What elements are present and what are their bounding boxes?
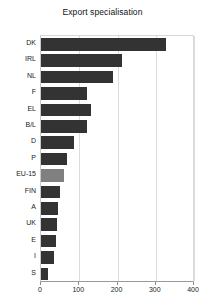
y-axis-label-el: EL xyxy=(0,101,36,117)
y-axis-label-e: E xyxy=(0,232,36,248)
bar-nl xyxy=(41,71,113,84)
bar-row xyxy=(41,52,193,68)
y-axis-category-labels: DKIRLNLFELB/LDPEU-15FINAUKEIS xyxy=(0,35,36,282)
bar-row xyxy=(41,167,193,183)
y-axis-label-f: F xyxy=(0,84,36,100)
bar-irl xyxy=(41,54,122,67)
plot-area xyxy=(40,35,194,282)
bar-b-l xyxy=(41,120,87,133)
export-specialisation-chart: Export specialisation DKIRLNLFELB/LDPEU-… xyxy=(0,0,205,308)
bar-row xyxy=(41,36,193,52)
x-axis: 0100200300400 xyxy=(40,282,194,306)
bar-s xyxy=(41,268,48,281)
bar-i xyxy=(41,251,54,264)
bar-dk xyxy=(41,38,166,51)
x-axis-tick xyxy=(117,282,118,285)
x-axis-tick xyxy=(155,282,156,285)
bar-series xyxy=(41,36,193,281)
bar-row xyxy=(41,266,193,282)
bar-row xyxy=(41,69,193,85)
bar-row xyxy=(41,85,193,101)
y-axis-label-a: A xyxy=(0,199,36,215)
y-axis-label-i: I xyxy=(0,248,36,264)
bar-row xyxy=(41,102,193,118)
bar-row xyxy=(41,216,193,232)
bar-el xyxy=(41,104,91,117)
x-axis-tick xyxy=(40,282,41,285)
bar-row xyxy=(41,233,193,249)
y-axis-label-p: P xyxy=(0,150,36,166)
y-axis-label-irl: IRL xyxy=(0,51,36,67)
x-axis-tick-label: 200 xyxy=(111,286,123,293)
bar-row xyxy=(41,151,193,167)
x-axis-tick xyxy=(78,282,79,285)
x-axis-tick-label: 400 xyxy=(187,286,199,293)
bar-row xyxy=(41,134,193,150)
y-axis-label-uk: UK xyxy=(0,215,36,231)
x-axis-tick-label: 0 xyxy=(38,286,42,293)
y-axis-label-dk: DK xyxy=(0,35,36,51)
x-axis-tick-label: 300 xyxy=(149,286,161,293)
bar-uk xyxy=(41,218,57,231)
bar-f xyxy=(41,87,87,100)
bar-a xyxy=(41,202,58,215)
bar-e xyxy=(41,235,56,248)
x-axis-tick-label: 100 xyxy=(72,286,84,293)
bar-row xyxy=(41,249,193,265)
y-axis-label-eu-15: EU-15 xyxy=(0,166,36,182)
bar-row xyxy=(41,200,193,216)
x-axis-tick xyxy=(193,282,194,285)
bar-row xyxy=(41,118,193,134)
bar-fin xyxy=(41,186,60,199)
y-axis-label-fin: FIN xyxy=(0,183,36,199)
y-axis-label-d: D xyxy=(0,133,36,149)
y-axis-label-nl: NL xyxy=(0,68,36,84)
y-axis-label-s: S xyxy=(0,265,36,281)
y-axis-label-b-l: B/L xyxy=(0,117,36,133)
bar-row xyxy=(41,184,193,200)
bar-p xyxy=(41,153,67,166)
gridline xyxy=(194,36,195,281)
bar-d xyxy=(41,136,74,149)
chart-title: Export specialisation xyxy=(0,7,205,17)
bar-eu-15 xyxy=(41,169,64,182)
